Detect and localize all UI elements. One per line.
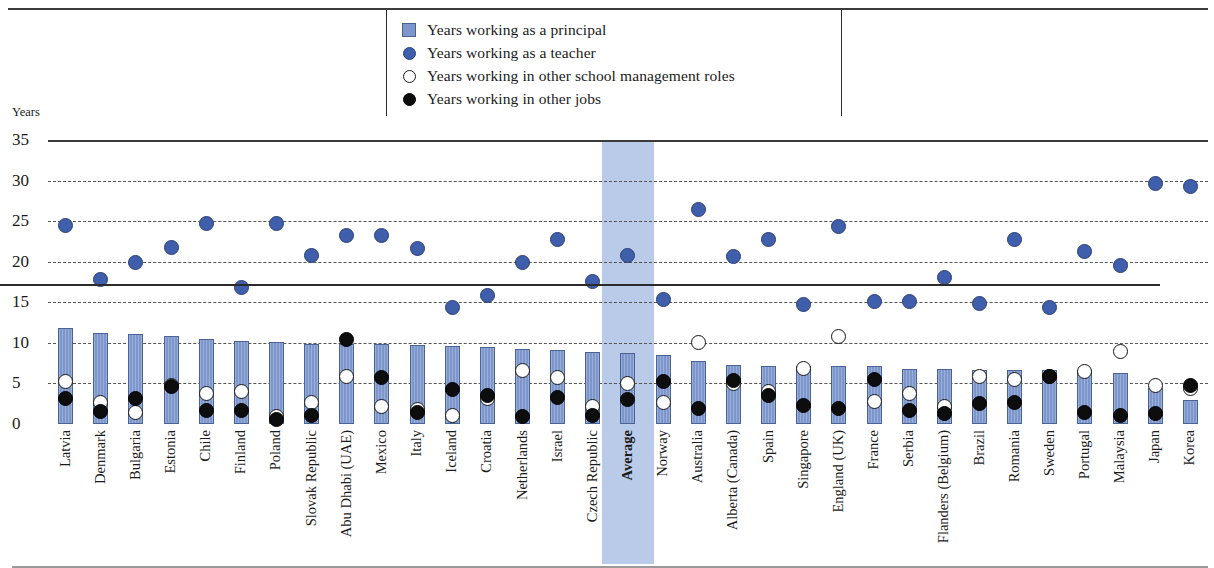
x-axis-category-label: Denmark	[93, 430, 108, 484]
circle-open-icon-glyph	[403, 70, 416, 83]
teacher-years-marker	[656, 292, 671, 307]
x-axis-category-label: Sweden	[1042, 430, 1057, 476]
teacher-years-marker	[796, 297, 811, 312]
x-axis-category-label: Chile	[198, 430, 213, 461]
x-axis-category-label: Israel	[550, 430, 565, 462]
circle-blue-icon	[400, 44, 418, 62]
teacher-years-marker	[374, 228, 389, 243]
y-axis-tick-label: 25	[12, 212, 46, 229]
chart-column	[751, 140, 786, 424]
x-axis-category-label: Korea	[1182, 430, 1197, 465]
x-axis-category-label: Italy	[409, 430, 424, 457]
other-jobs-years-marker	[867, 372, 882, 387]
chart-column	[189, 140, 224, 424]
teacher-years-marker	[515, 255, 530, 270]
teacher-years-marker	[339, 228, 354, 243]
other-jobs-years-marker	[164, 379, 179, 394]
other-jobs-years-marker	[410, 405, 425, 420]
chart-column	[997, 140, 1032, 424]
teacher-years-marker	[972, 296, 987, 311]
teacher-years-marker	[164, 240, 179, 255]
principal-years-bar	[1183, 400, 1198, 424]
circle-filled-icon	[400, 90, 418, 108]
teacher-years-marker	[1183, 179, 1198, 194]
chart-column	[118, 140, 153, 424]
other-jobs-years-marker	[234, 403, 249, 418]
chart-column	[1067, 140, 1102, 424]
teacher-years-marker	[304, 248, 319, 263]
x-axis-category-label: Singapore	[796, 430, 811, 489]
legend-item: Years working in other school management…	[400, 64, 860, 87]
bottom-divider	[12, 566, 1208, 568]
other-jobs-years-marker	[1113, 408, 1128, 423]
legend-item: Years working as a principal	[400, 18, 860, 41]
chart-column	[224, 140, 259, 424]
other-jobs-years-marker	[1042, 369, 1057, 384]
legend-item: Years working in other jobs	[400, 87, 860, 110]
circle-blue-icon-glyph	[403, 47, 416, 60]
y-axis-tick-label: 30	[12, 172, 46, 189]
x-axis-category-label: Portugal	[1077, 430, 1092, 479]
teacher-years-marker	[1113, 258, 1128, 273]
teacher-years-marker	[620, 248, 635, 263]
chart-column	[470, 140, 505, 424]
chart-column	[575, 140, 610, 424]
x-axis-category-label: Malaysia	[1112, 430, 1127, 483]
chart-column	[610, 140, 645, 424]
teacher-years-marker	[1042, 300, 1057, 315]
y-axis-unit-label: Years	[12, 105, 40, 120]
principal-years-bar	[550, 350, 565, 424]
principal-years-bar	[339, 344, 354, 424]
chart-column	[716, 140, 751, 424]
chart-column	[1138, 140, 1173, 424]
management-years-marker	[867, 394, 882, 409]
teacher-years-marker	[585, 274, 600, 289]
x-axis-category-label: Romania	[1007, 430, 1022, 482]
teacher-years-marker	[480, 288, 495, 303]
other-jobs-years-marker	[199, 403, 214, 418]
other-jobs-years-marker	[937, 406, 952, 421]
chart-column	[259, 140, 294, 424]
y-axis-tick-label: 10	[12, 334, 46, 351]
management-years-marker	[1113, 344, 1128, 359]
square-blue-icon-glyph	[402, 23, 416, 37]
principal-years-bar	[656, 355, 671, 424]
other-jobs-years-marker	[902, 403, 917, 418]
chart-column	[364, 140, 399, 424]
circle-open-icon	[400, 67, 418, 85]
teacher-years-marker	[761, 232, 776, 247]
legend-item: Years working as a teacher	[400, 41, 860, 64]
x-axis-category-label: France	[866, 430, 881, 469]
chart-column	[786, 140, 821, 424]
management-years-marker	[445, 408, 460, 423]
x-axis-category-label: Czech Republic	[585, 430, 600, 522]
other-jobs-years-marker	[93, 404, 108, 419]
x-axis-category-label: Alberta (Canada)	[725, 430, 740, 530]
x-axis-category-label: England (UK)	[831, 430, 846, 513]
x-axis-category-label: Flanders (Belgium)	[936, 430, 951, 543]
teacher-years-marker	[937, 270, 952, 285]
x-axis-category-label: Poland	[268, 430, 283, 470]
other-jobs-years-marker	[796, 398, 811, 413]
chart-column	[83, 140, 118, 424]
x-axis-category-label: Japan	[1147, 430, 1162, 463]
teacher-years-marker	[550, 232, 565, 247]
other-jobs-years-marker	[691, 401, 706, 416]
x-axis-category-labels: LatviaDenmarkBulgariaEstoniaChileFinland…	[48, 430, 1208, 568]
teacher-years-marker	[831, 219, 846, 234]
other-jobs-years-marker	[480, 388, 495, 403]
y-axis-tick-label: 5	[12, 374, 46, 391]
chart-column	[48, 140, 83, 424]
x-axis-category-label: Slovak Republic	[304, 430, 319, 526]
chart-column	[435, 140, 470, 424]
management-years-marker	[831, 329, 846, 344]
legend-item-label: Years working in other school management…	[427, 68, 735, 84]
chart-column	[1173, 140, 1208, 424]
chart-column	[892, 140, 927, 424]
teacher-years-marker	[445, 300, 460, 315]
legend: Years working as a principalYears workin…	[400, 18, 860, 110]
management-years-marker	[199, 386, 214, 401]
chart-column	[505, 140, 540, 424]
chart-column	[1032, 140, 1067, 424]
teacher-years-marker	[58, 218, 73, 233]
